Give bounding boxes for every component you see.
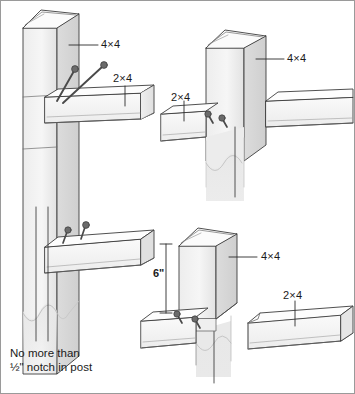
nail-head-tl-3 [65, 227, 71, 233]
nail-head-tr-2 [219, 115, 225, 121]
label-post-bottom-right: 4×4 [261, 250, 280, 263]
label-post-top-left: 4×4 [101, 38, 120, 51]
illustration-figure: 4×4 2×4 4×4 2×4 4×4 2×4 6" No more than … [0, 0, 355, 394]
label-rail-bottom-right: 2×4 [283, 289, 302, 302]
detail-top-right-group [161, 30, 353, 201]
nail-head-br-2 [192, 316, 198, 322]
post-front-face-br [179, 246, 216, 319]
post-right-face-tr [244, 36, 266, 161]
nail-head-tl-4 [83, 222, 90, 229]
nail-head-tl-2 [101, 62, 108, 69]
detail-bottom-right-group [141, 228, 353, 383]
label-rail-top-right: 2×4 [171, 91, 190, 104]
note-line-2: ½" notch in post [10, 361, 92, 375]
label-dimension-6in: 6" [153, 267, 164, 280]
note-notch-depth: No more than ½" notch in post [10, 347, 92, 374]
label-post-top-right: 4×4 [287, 52, 306, 65]
note-line-1: No more than [10, 347, 80, 359]
nail-head-tr-1 [205, 111, 211, 117]
nail-head-tl-1 [72, 66, 79, 73]
rail-left-face-tr [161, 111, 206, 141]
nail-head-br-1 [174, 311, 180, 317]
post-right-face-br [216, 234, 237, 319]
label-rail-top-left: 2×4 [113, 72, 132, 85]
rail-right-face-tr [266, 97, 353, 127]
detail-top-left-group [23, 10, 154, 374]
